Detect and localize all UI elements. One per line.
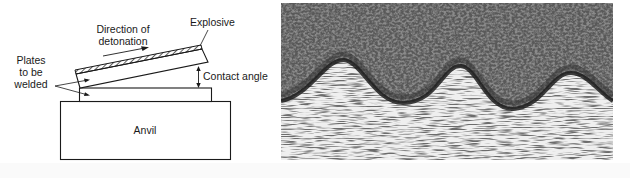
- direction-label-line2: detonation: [85, 35, 161, 47]
- plates-label-line1: Plates: [14, 54, 48, 66]
- contact-angle-arrow: [196, 66, 200, 88]
- plates-label-line2: to be: [14, 66, 48, 78]
- base-plate: [80, 88, 212, 102]
- explosive-welding-schematic: Direction of detonation Explosive Plates…: [0, 0, 280, 178]
- contact-angle-label: Contact angle: [203, 70, 268, 82]
- anvil-label: Anvil: [120, 124, 170, 136]
- explosive-label: Explosive: [190, 16, 235, 28]
- direction-label-line1: Direction of: [85, 23, 161, 35]
- detonation-direction-arrow: [103, 46, 149, 56]
- weld-interface-micrograph: [281, 3, 613, 160]
- micrograph-image: [281, 3, 613, 160]
- plates-label-line3: welded: [14, 78, 48, 90]
- explosive-leader-line: [200, 30, 208, 46]
